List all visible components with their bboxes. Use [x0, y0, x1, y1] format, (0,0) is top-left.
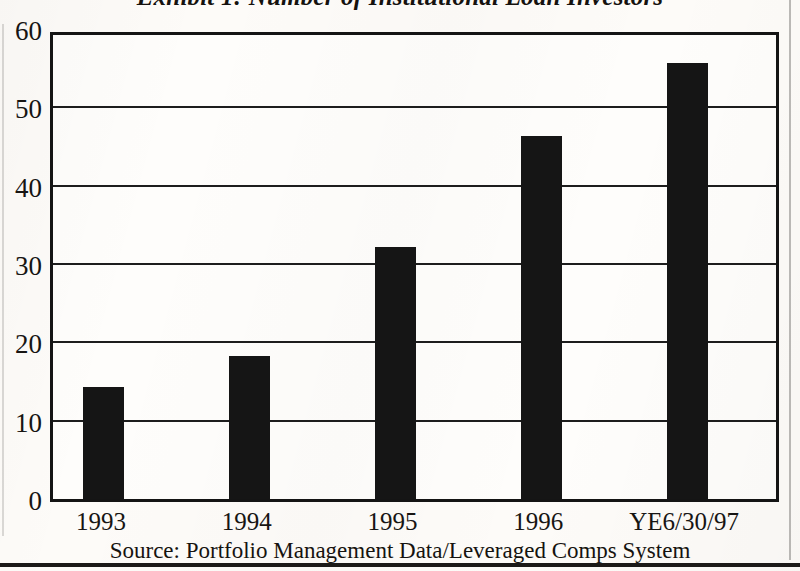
- y-axis-tick-label: 20: [0, 331, 42, 358]
- bar: [667, 63, 708, 499]
- bar: [521, 136, 562, 499]
- x-axis-tick-labels: 1993199419951996YE6/30/97: [50, 508, 779, 542]
- page-left-edge-rule: [2, 24, 4, 536]
- source-note: Source: Portfolio Management Data/Levera…: [0, 538, 800, 564]
- scanned-page: Exhibit 1: Number of Institutional Loan …: [0, 0, 800, 571]
- bar: [229, 356, 270, 499]
- y-axis-tick-label: 10: [0, 410, 42, 437]
- chart-title: Exhibit 1: Number of Institutional Loan …: [0, 0, 800, 11]
- y-axis-tick-label: 60: [0, 18, 42, 45]
- y-axis-tick-label: 50: [0, 96, 42, 123]
- x-axis-tick-label: 1996: [465, 508, 611, 536]
- x-axis-tick-label: YE6/30/97: [611, 508, 757, 536]
- plot-area: [50, 32, 779, 502]
- x-axis-tick-label: 1995: [320, 508, 466, 536]
- page-right-edge-rule: [789, 0, 791, 560]
- y-axis-tick-labels: 0102030405060: [0, 0, 44, 571]
- y-axis-tick-label: 40: [0, 175, 42, 202]
- bar: [83, 387, 124, 499]
- y-axis-tick-label: 30: [0, 253, 42, 280]
- x-axis-tick-label: 1994: [174, 508, 320, 536]
- x-axis-tick-label: 1993: [28, 508, 174, 536]
- page-bottom-rule: [0, 563, 800, 567]
- bar: [375, 247, 416, 499]
